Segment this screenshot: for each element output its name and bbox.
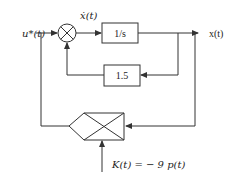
derivative-label: ẋ(t): [80, 10, 98, 21]
output-label: x(t): [209, 28, 223, 40]
inner-feedback-line: [141, 33, 178, 75]
summing-junction: [58, 24, 76, 42]
block-diagram: u*(t) ẋ(t) 1/s x(t) 1.5 K(t) = − 9 p(t): [0, 0, 234, 178]
feedback-gain-label: 1.5: [116, 70, 129, 81]
outer-loop-left-line: [41, 33, 69, 126]
gain-to-junction-line: [67, 43, 104, 75]
feedback-gain-block: 1.5: [104, 65, 140, 86]
integrator-label: 1/s: [114, 28, 126, 39]
integrator-block: 1/s: [102, 23, 138, 43]
multiplier: [69, 113, 124, 140]
gain-input-label: K(t) = − 9 p(t): [111, 159, 185, 170]
